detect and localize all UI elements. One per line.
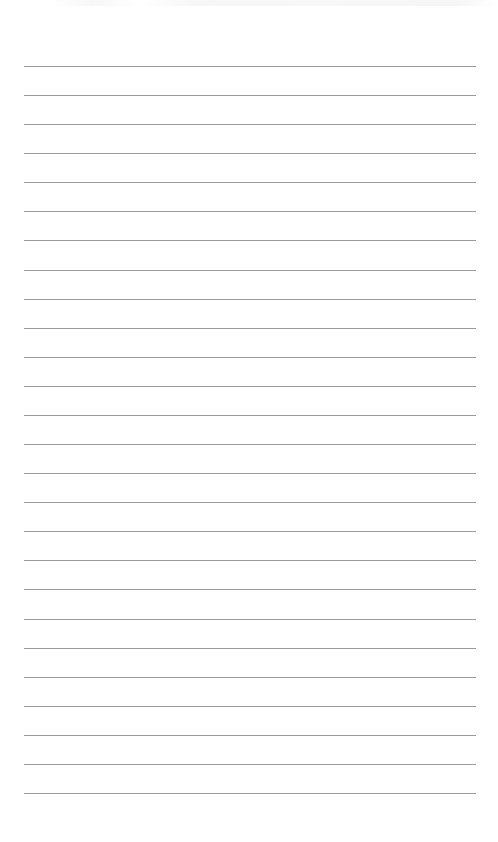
ruled-line xyxy=(24,415,476,416)
ruled-line xyxy=(24,619,476,620)
ruled-line xyxy=(24,735,476,736)
ruled-line xyxy=(24,444,476,445)
ruled-line xyxy=(24,299,476,300)
ruled-line xyxy=(24,66,476,67)
ruled-line xyxy=(24,386,476,387)
ruled-line xyxy=(24,357,476,358)
ruled-line xyxy=(24,240,476,241)
ruled-line xyxy=(24,153,476,154)
ruled-line xyxy=(24,473,476,474)
lined-paper-page xyxy=(24,0,476,842)
ruled-line xyxy=(24,677,476,678)
ruled-line xyxy=(24,211,476,212)
ruled-line xyxy=(24,502,476,503)
ruled-line xyxy=(24,793,476,794)
ruled-line xyxy=(24,648,476,649)
ruled-line xyxy=(24,270,476,271)
ruled-line xyxy=(24,764,476,765)
ruled-line xyxy=(24,328,476,329)
ruled-line xyxy=(24,706,476,707)
ruled-line xyxy=(24,95,476,96)
ruled-line xyxy=(24,589,476,590)
ruled-line xyxy=(24,560,476,561)
ruled-line xyxy=(24,182,476,183)
ruled-line xyxy=(24,531,476,532)
ruled-line xyxy=(24,124,476,125)
